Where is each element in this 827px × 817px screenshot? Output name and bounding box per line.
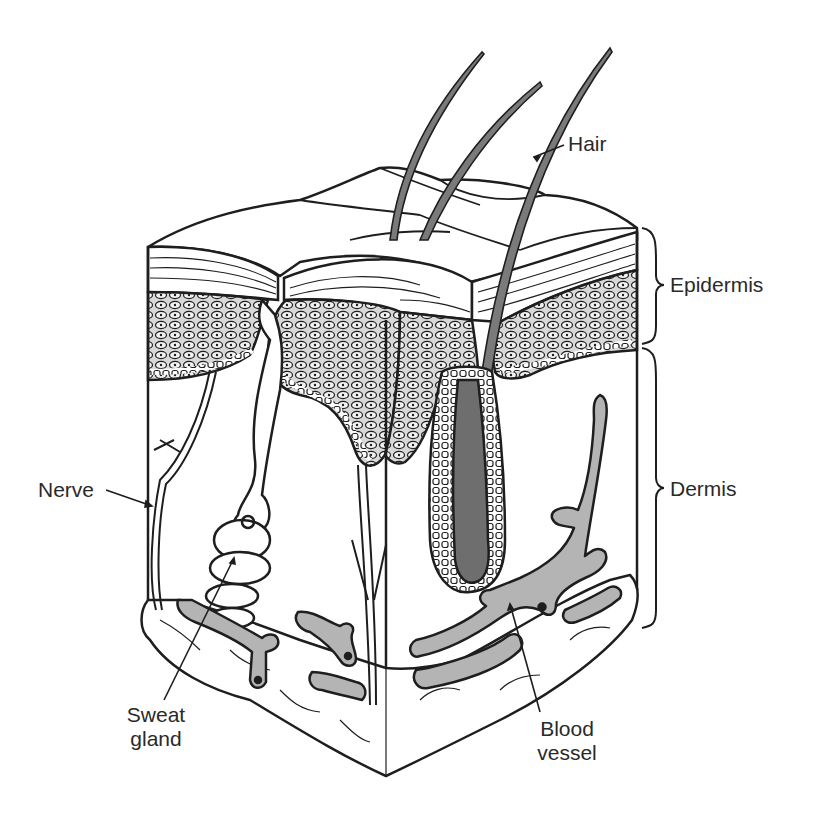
hair-label: Hair — [568, 132, 607, 156]
blood-vessel-label-line1: Blood — [530, 717, 604, 741]
dermis-label: Dermis — [670, 477, 737, 501]
sweat-gland-label: Sweat gland — [118, 703, 194, 751]
skin-cross-section-diagram — [0, 0, 827, 817]
nerve-label: Nerve — [38, 478, 94, 502]
dermis-brace — [642, 348, 664, 628]
blood-vessel-label: Blood vessel — [530, 717, 604, 765]
blood-vessel-label-line2: vessel — [530, 741, 604, 765]
epidermis-label: Epidermis — [670, 273, 763, 297]
sweat-gland-label-line1: Sweat — [118, 703, 194, 727]
hair-follicle — [429, 367, 505, 593]
sweat-gland-label-line2: gland — [118, 727, 194, 751]
epidermis-brace — [642, 228, 664, 344]
layer-braces — [642, 228, 664, 628]
